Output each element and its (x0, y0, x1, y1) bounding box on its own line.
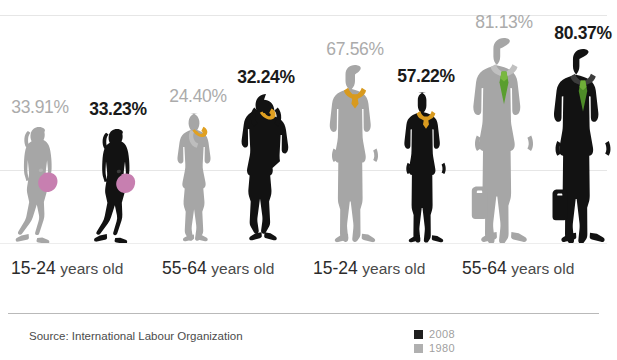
plot-area: 33.91% 33.23% (0, 0, 607, 246)
legend-swatch-2008 (414, 330, 423, 339)
value-label-2-old: 24.40% (169, 88, 227, 106)
category-1-range: 15-24 (11, 258, 56, 278)
legend-swatch-1980 (414, 344, 423, 353)
value-label-1-old: 33.91% (11, 99, 69, 117)
category-label-2: 55-64 years old (162, 258, 274, 279)
figure-slot-2-old: 24.40% (168, 88, 228, 244)
value-label-1-new: 33.23% (89, 101, 147, 119)
legend-item-2008: 2008 (414, 327, 455, 341)
silhouette-young-man-2008 (396, 90, 456, 243)
figure-slot-3-new: 57.22% (396, 68, 456, 244)
value-label-3-new: 57.22% (397, 68, 455, 86)
category-label-3: 15-24 years old (313, 258, 425, 279)
category-2-range: 55-64 (162, 258, 207, 278)
footer-divider (8, 313, 599, 314)
value-label-4-old: 81.13% (475, 14, 533, 32)
group-1: 33.91% 33.23% (0, 0, 160, 243)
value-label-4-new: 80.37% (554, 25, 612, 43)
category-4-years: years old (511, 260, 574, 277)
silhouette-young-man-1980 (320, 63, 390, 243)
figure-slot-2-new: 32.24% (234, 69, 298, 244)
value-label-2-new: 32.24% (237, 69, 295, 87)
figure-slot-4-old: 81.13% (466, 14, 542, 244)
legend: 2008 1980 (414, 327, 455, 355)
category-label-1: 15-24 years old (11, 258, 123, 279)
category-label-4: 55-64 years old (462, 258, 574, 279)
category-4-range: 55-64 (462, 258, 507, 278)
group-4: 81.13% (458, 0, 607, 243)
category-3-years: years old (362, 260, 425, 277)
figure-slot-3-old: 67.56% (320, 41, 390, 244)
silhouette-older-woman-2008 (234, 91, 298, 243)
category-axis: 15-24 years old 55-64 years old 15-24 ye… (0, 258, 607, 286)
legend-label-2008: 2008 (429, 328, 455, 340)
silhouette-older-man-suit-1980 (466, 36, 542, 243)
silhouette-older-woman-1980 (168, 110, 228, 243)
figure-slot-1-old: 33.91% (6, 99, 74, 244)
source-note: Source: International Labour Organizatio… (29, 330, 243, 342)
category-2-years: years old (211, 260, 274, 277)
figure-slot-1-new: 33.23% (84, 101, 152, 244)
value-label-3-old: 67.56% (326, 41, 384, 59)
group-2: 24.40% 32.24% (160, 0, 310, 243)
figure-slot-4-new: 80.37% (546, 25, 617, 244)
silhouette-young-woman-walking-2008 (84, 123, 152, 243)
legend-label-1980: 1980 (429, 342, 455, 354)
silhouette-older-man-suit-2008 (546, 47, 617, 243)
group-3: 67.56% (310, 0, 458, 243)
silhouette-young-woman-walking-1980 (6, 121, 74, 243)
category-3-range: 15-24 (313, 258, 358, 278)
category-1-years: years old (60, 260, 123, 277)
legend-item-1980: 1980 (414, 341, 455, 355)
